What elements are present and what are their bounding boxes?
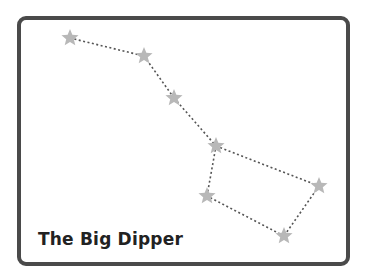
connection-line <box>174 98 216 146</box>
connection-line <box>284 186 319 236</box>
connection-line <box>70 38 144 56</box>
connection-line <box>207 146 216 196</box>
star-icon <box>135 47 152 63</box>
star-icon <box>165 89 182 105</box>
star-icon <box>310 177 327 193</box>
connection-line <box>216 146 319 186</box>
star-icon <box>61 29 78 45</box>
diagram-caption: The Big Dipper <box>38 229 183 249</box>
star-icon <box>198 187 215 203</box>
connection-line <box>207 196 284 236</box>
star-icon <box>275 227 292 243</box>
